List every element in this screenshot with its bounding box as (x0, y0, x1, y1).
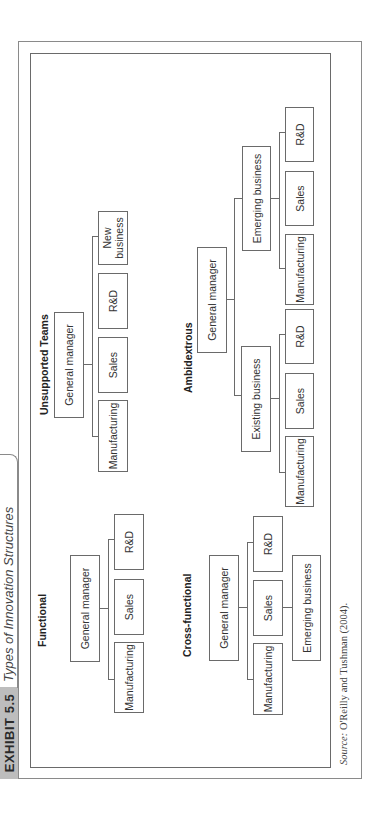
unsupported-teams-title: Unsupported Teams (38, 314, 50, 415)
source-citation: Source: O'Reilly and Tushman (2004). (338, 603, 349, 765)
cross-functional-title: Cross-functional (181, 574, 193, 657)
connector (279, 132, 280, 269)
cross-manufacturing: Manufacturing (253, 643, 283, 715)
connector (108, 539, 109, 680)
connector (247, 542, 248, 680)
unsupported-sales: Sales (98, 337, 128, 393)
ambi-emerging-sales: Sales (285, 171, 314, 226)
functional-sales: Sales (114, 579, 144, 635)
exhibit-figure: EXHIBIT 5.5 Types of Innovation Structur… (0, 0, 372, 825)
unsupported-new-business: New business (98, 211, 128, 265)
cross-sales: Sales (253, 580, 283, 636)
connector (271, 398, 279, 399)
exhibit-tag: EXHIBIT 5.5 (0, 687, 18, 779)
connector (279, 334, 280, 473)
functional-title: Functional (36, 594, 48, 647)
ambi-existing-business: Existing business (241, 346, 271, 452)
connector (84, 364, 92, 365)
cross-emerging-business: Emerging business (292, 555, 321, 661)
ambi-existing-manufacturing: Manufacturing (285, 436, 314, 507)
ambi-general-manager: General manager (197, 247, 227, 353)
unsupported-rnd: R&D (98, 273, 128, 329)
source-text: O'Reilly and Tushman (2004). (338, 603, 349, 730)
connector (92, 236, 93, 437)
connector (271, 198, 279, 199)
ambi-emerging-rnd: R&D (285, 107, 314, 162)
cross-rnd: R&D (253, 516, 283, 572)
connector (283, 607, 292, 608)
unsupported-manufacturing: Manufacturing (98, 400, 128, 472)
connector (100, 608, 108, 609)
cross-general-manager: General manager (209, 555, 239, 661)
connector (239, 607, 247, 608)
connector (234, 198, 242, 199)
ambidextrous-title: Ambidextrous (182, 322, 194, 393)
exhibit-title: Types of Innovation Structures (0, 454, 18, 688)
ambi-existing-rnd: R&D (285, 309, 314, 364)
ambi-existing-sales: Sales (285, 373, 314, 429)
ambi-emerging-manufacturing: Manufacturing (285, 234, 314, 305)
functional-manufacturing: Manufacturing (114, 642, 144, 713)
ambi-emerging-business: Emerging business (242, 146, 271, 251)
functional-rnd: R&D (114, 514, 144, 570)
source-label: Source: (338, 733, 349, 765)
connector (234, 198, 235, 396)
connector (234, 395, 241, 396)
unsupported-general-manager: General manager (54, 312, 84, 418)
connector (227, 299, 234, 300)
functional-general-manager: General manager (70, 555, 100, 662)
